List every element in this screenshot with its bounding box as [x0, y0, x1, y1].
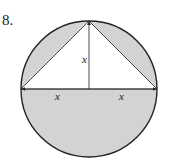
label-right-half: x: [118, 90, 124, 102]
label-left-half: x: [54, 90, 60, 102]
geometry-diagram: x x x: [0, 0, 170, 165]
label-height: x: [81, 53, 87, 65]
